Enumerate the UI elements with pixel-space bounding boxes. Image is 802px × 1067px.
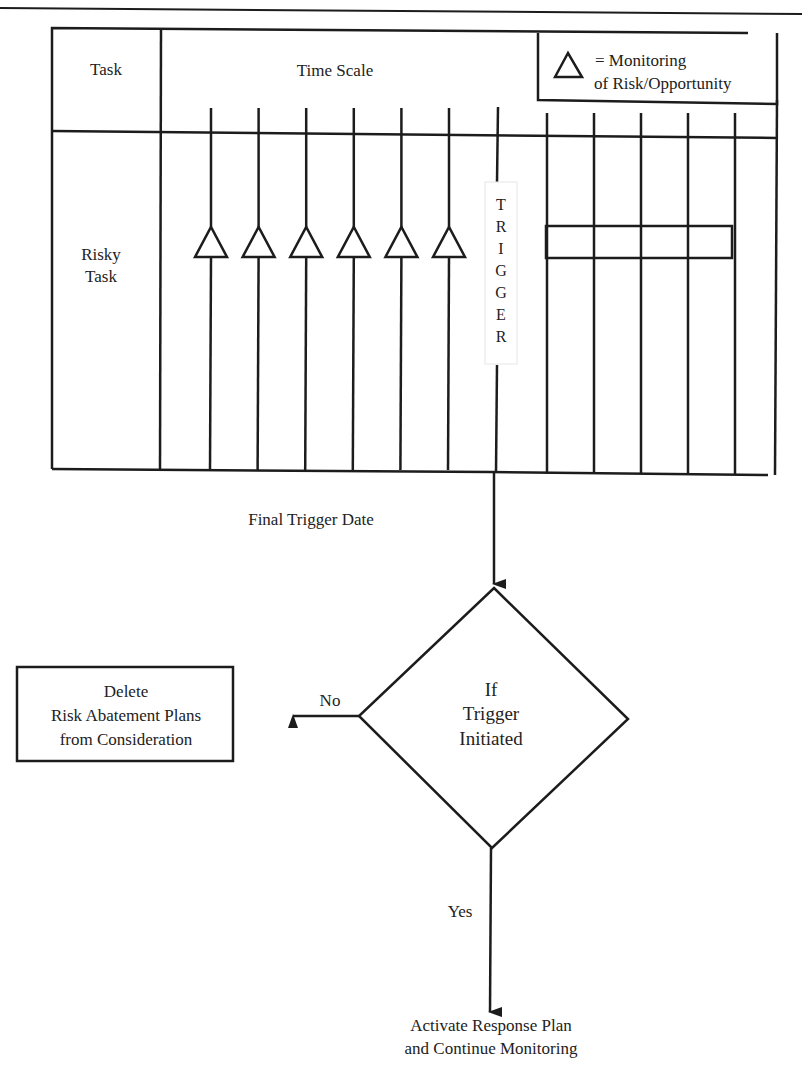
trigger-letter: R bbox=[496, 218, 507, 235]
arrow-yes-branch bbox=[490, 848, 491, 1012]
timeline-table: Task Time Scale Risky Task TRIGGER bbox=[52, 28, 777, 475]
trigger-letter: I bbox=[498, 240, 503, 257]
post-trigger-time-lines bbox=[547, 113, 735, 474]
monitoring-triangle-icon bbox=[338, 227, 370, 257]
monitoring-line-bottom bbox=[353, 257, 354, 470]
activate-response-line1: Activate Response Plan bbox=[410, 1016, 572, 1035]
trigger-letter: G bbox=[495, 284, 507, 301]
trigger-letter: T bbox=[496, 196, 506, 213]
decision-line3: Initiated bbox=[459, 728, 523, 749]
monitoring-line-bottom bbox=[400, 257, 401, 470]
legend-triangle-icon bbox=[555, 53, 582, 77]
row-label-task: Task bbox=[85, 267, 117, 286]
decision-node: If Trigger Initiated bbox=[359, 588, 628, 848]
monitoring-line-bottom bbox=[305, 257, 306, 470]
legend-line2: of Risk/Opportunity bbox=[594, 74, 732, 93]
no-label: No bbox=[320, 691, 341, 710]
monitoring-line-bottom bbox=[210, 257, 211, 470]
monitoring-triangle-icon bbox=[243, 227, 275, 257]
trigger-line-top bbox=[497, 107, 498, 182]
trigger-letter: R bbox=[496, 328, 507, 345]
delete-plans-line1: Delete bbox=[104, 682, 148, 701]
legend-line1: = Monitoring bbox=[595, 51, 687, 70]
time-scale-header: Time Scale bbox=[297, 61, 373, 80]
monitoring-triangle-icon bbox=[433, 227, 465, 257]
monitoring-triangle-icon bbox=[195, 227, 227, 257]
row-label-risky: Risky bbox=[81, 245, 121, 264]
monitoring-line-bottom bbox=[258, 257, 259, 470]
task-column-divider bbox=[160, 28, 161, 469]
trigger-line-bottom bbox=[496, 365, 497, 472]
trigger-label: TRIGGER bbox=[495, 196, 507, 345]
table-frame-right bbox=[775, 100, 777, 475]
trigger-letter: E bbox=[496, 306, 506, 323]
trigger-letter: G bbox=[495, 262, 507, 279]
legend: = Monitoring of Risk/Opportunity bbox=[538, 33, 777, 104]
trigger-marker: TRIGGER bbox=[485, 107, 517, 472]
page-top-rule bbox=[0, 8, 802, 14]
yes-label: Yes bbox=[448, 902, 473, 921]
table-frame-bottom bbox=[52, 469, 768, 475]
decision-line2: Trigger bbox=[463, 703, 520, 724]
delete-plans-line3: from Consideration bbox=[60, 730, 193, 749]
delete-plans-box: Delete Risk Abatement Plans from Conside… bbox=[17, 667, 233, 761]
delete-plans-line2: Risk Abatement Plans bbox=[51, 706, 201, 725]
risk-trigger-diagram: Task Time Scale Risky Task TRIGGER = Mon… bbox=[0, 0, 802, 1067]
monitoring-triangle-icon bbox=[290, 227, 322, 257]
decision-line1: If bbox=[485, 679, 498, 700]
activate-response-line2: and Continue Monitoring bbox=[405, 1039, 578, 1058]
response-duration-bar bbox=[546, 226, 732, 258]
task-header: Task bbox=[90, 60, 122, 79]
final-trigger-date-label: Final Trigger Date bbox=[248, 510, 374, 529]
monitoring-line-bottom bbox=[448, 257, 449, 470]
monitoring-time-lines bbox=[195, 108, 465, 470]
monitoring-triangle-icon bbox=[385, 227, 417, 257]
